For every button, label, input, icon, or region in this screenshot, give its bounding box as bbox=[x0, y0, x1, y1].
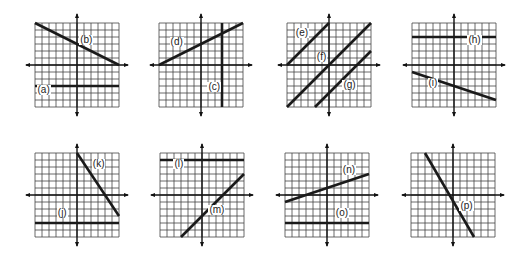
axis-arrow-icon bbox=[75, 143, 79, 148]
line-label: (b) bbox=[79, 35, 93, 45]
line-label: (f) bbox=[316, 52, 327, 62]
graph-g1: (a)(b) bbox=[22, 10, 132, 120]
line-label: (h) bbox=[467, 35, 481, 45]
line-label: (i) bbox=[428, 78, 439, 88]
axis-arrow-icon bbox=[401, 193, 406, 197]
grid-plot bbox=[272, 140, 382, 250]
line-label: (n) bbox=[342, 165, 356, 175]
grid-plot bbox=[22, 10, 132, 120]
axis-arrow-icon bbox=[452, 112, 456, 117]
axis-arrow-icon bbox=[500, 193, 505, 197]
line-label: (e) bbox=[295, 28, 309, 38]
axis-arrow-icon bbox=[149, 63, 154, 67]
axis-arrow-icon bbox=[374, 193, 379, 197]
graph-g6: (l)(m) bbox=[147, 140, 257, 250]
line-label: (j) bbox=[57, 208, 68, 218]
axis-arrow-icon bbox=[249, 193, 254, 197]
line-label: (d) bbox=[170, 37, 184, 47]
axis-arrow-icon bbox=[75, 242, 79, 247]
axis-arrow-icon bbox=[199, 112, 203, 117]
grid-plot bbox=[399, 10, 509, 120]
axis-arrow-icon bbox=[327, 112, 331, 117]
axis-arrow-icon bbox=[248, 63, 253, 67]
axis-arrow-icon bbox=[75, 13, 79, 18]
axis-arrow-icon bbox=[200, 143, 204, 148]
axis-arrow-icon bbox=[124, 193, 129, 197]
line-label: (o) bbox=[335, 208, 349, 218]
graph-g8: (p) bbox=[398, 140, 508, 250]
grid-plot bbox=[274, 10, 384, 120]
axis-arrow-icon bbox=[501, 63, 506, 67]
axis-arrow-icon bbox=[200, 242, 204, 247]
axis-arrow-icon bbox=[199, 13, 203, 18]
graph-g4: (h)(i) bbox=[399, 10, 509, 120]
line-label: (g) bbox=[342, 80, 356, 90]
axis-arrow-icon bbox=[124, 63, 129, 67]
axis-arrow-icon bbox=[452, 13, 456, 18]
grid-plot bbox=[147, 140, 257, 250]
line-label: (a) bbox=[37, 85, 51, 95]
axis-arrow-icon bbox=[75, 112, 79, 117]
graph-g2: (c)(d) bbox=[146, 10, 256, 120]
graph-g5: (j)(k) bbox=[22, 140, 132, 250]
axis-arrow-icon bbox=[25, 193, 30, 197]
line-label: (c) bbox=[207, 82, 221, 92]
grid-plot bbox=[22, 140, 132, 250]
axis-arrow-icon bbox=[451, 242, 455, 247]
axis-arrow-icon bbox=[277, 63, 282, 67]
graph-g3: (e)(f)(g) bbox=[274, 10, 384, 120]
graph-g7: (n)(o) bbox=[272, 140, 382, 250]
axis-arrow-icon bbox=[325, 242, 329, 247]
axis-arrow-icon bbox=[325, 143, 329, 148]
line-label: (l) bbox=[173, 159, 184, 169]
line-label: (m) bbox=[208, 205, 225, 215]
axis-arrow-icon bbox=[327, 13, 331, 18]
line-label: (k) bbox=[92, 159, 106, 169]
axis-arrow-icon bbox=[376, 63, 381, 67]
line-label: (p) bbox=[459, 201, 473, 211]
grid-plot bbox=[146, 10, 256, 120]
axis-arrow-icon bbox=[150, 193, 155, 197]
axis-arrow-icon bbox=[402, 63, 407, 67]
axis-arrow-icon bbox=[275, 193, 280, 197]
axis-arrow-icon bbox=[25, 63, 30, 67]
grid-plot bbox=[398, 140, 508, 250]
axis-arrow-icon bbox=[451, 143, 455, 148]
